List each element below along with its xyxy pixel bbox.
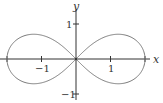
x-tick-label-neg1: −1: [35, 63, 50, 74]
x-axis-label: x: [153, 53, 160, 66]
x-tick-label-1: 1: [108, 63, 114, 74]
y-axis-label: y: [72, 0, 80, 13]
plot-area: x y −1 1 1 −1: [0, 0, 163, 103]
lemniscate-figure: x y −1 1 1 −1: [0, 0, 163, 103]
origin-point: [75, 58, 77, 60]
y-tick-label-1: 1: [66, 19, 72, 30]
y-tick-label-neg1: −1: [61, 89, 76, 100]
